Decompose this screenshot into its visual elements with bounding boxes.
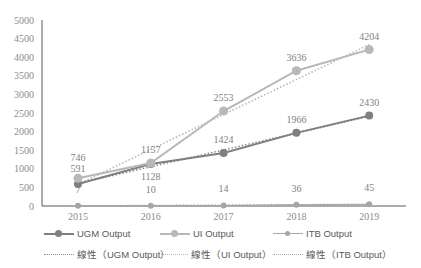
data-point-marker[interactable] <box>75 203 81 209</box>
data-label: 14 <box>219 183 229 194</box>
x-tick-label: 2017 <box>214 211 234 222</box>
y-tick-label: 1500 <box>14 145 34 156</box>
data-label: 1157 <box>141 144 161 155</box>
data-label: 10 <box>146 184 156 195</box>
x-tick-label: 2019 <box>359 211 379 222</box>
data-point-marker[interactable] <box>74 174 83 183</box>
data-label: 3636 <box>286 52 306 63</box>
ui-series-swatch-icon <box>160 229 190 239</box>
legend-item-itb[interactable]: ITB Output <box>273 228 352 239</box>
legend-item-ugm[interactable]: UGM Output <box>44 228 130 239</box>
data-point-marker[interactable] <box>292 66 301 75</box>
y-tick-label: 5000 <box>14 15 34 26</box>
data-point-marker[interactable] <box>219 107 228 116</box>
y-tick-label: 1000 <box>14 163 34 174</box>
data-point-marker[interactable] <box>365 45 374 54</box>
legend-label-ui: UI Output <box>193 228 234 239</box>
data-point-marker[interactable] <box>293 202 299 208</box>
itb-series-swatch-icon <box>273 229 303 239</box>
legend-item-ui-trend[interactable]: 線性（UI Output） <box>158 247 272 261</box>
y-tick-label: 2500 <box>14 108 34 119</box>
data-label: 2430 <box>359 97 379 108</box>
y-tick-label: 3000 <box>14 89 34 100</box>
y-tick-label: 4000 <box>14 52 34 63</box>
data-label: 1966 <box>286 114 306 125</box>
data-label: 7 <box>76 184 81 195</box>
line-chart: 0500100015002000250030003500400045005000… <box>0 0 421 226</box>
x-tick-label: 2016 <box>141 211 161 222</box>
data-label: 36 <box>291 183 301 194</box>
legend-item-itb-trend[interactable]: 線性（ITB Output） <box>273 247 392 261</box>
ugm-series-swatch-icon <box>44 229 74 239</box>
data-label: 1424 <box>214 134 234 145</box>
legend-label-ugm-trend: 線性（UGM Output） <box>77 247 170 261</box>
x-axis-ticks: 20152016201720182019 <box>68 211 379 222</box>
y-tick-label: 2000 <box>14 126 34 137</box>
data-point-marker[interactable] <box>220 149 228 157</box>
data-point-marker[interactable] <box>292 129 300 137</box>
data-point-marker[interactable] <box>148 203 154 209</box>
y-tick-label: 0 <box>29 201 34 212</box>
data-label: 746 <box>71 152 86 163</box>
data-label: 591 <box>71 163 86 174</box>
legend-label-ugm: UGM Output <box>77 228 130 239</box>
y-axis-ticks: 0500100015002000250030003500400045005000 <box>14 15 34 212</box>
legend-item-ui[interactable]: UI Output <box>160 228 234 239</box>
legend-item-ugm-trend[interactable]: 線性（UGM Output） <box>44 247 170 261</box>
data-point-marker[interactable] <box>366 201 372 207</box>
legend-label-itb: ITB Output <box>306 228 352 239</box>
data-label: 45 <box>364 182 374 193</box>
data-label: 1128 <box>141 171 161 182</box>
data-point-marker[interactable] <box>146 158 155 167</box>
data-label: 2553 <box>214 92 234 103</box>
data-point-marker[interactable] <box>221 202 227 208</box>
data-point-marker[interactable] <box>365 112 373 120</box>
y-tick-label: 4500 <box>14 33 34 44</box>
y-tick-label: 500 <box>19 182 34 193</box>
x-tick-label: 2015 <box>68 211 88 222</box>
legend-label-itb-trend: 線性（ITB Output） <box>306 247 392 261</box>
x-tick-label: 2018 <box>286 211 306 222</box>
y-tick-label: 3500 <box>14 70 34 81</box>
ugm-trendline-swatch-icon <box>44 249 74 259</box>
ui-trendline-swatch-icon <box>158 249 188 259</box>
itb-trendline-swatch-icon <box>273 249 303 259</box>
data-label: 4204 <box>359 31 379 42</box>
legend-label-ui-trend: 線性（UI Output） <box>191 247 272 261</box>
